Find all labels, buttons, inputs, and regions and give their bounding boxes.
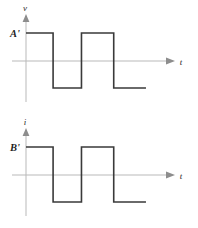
waveform-plot-current: i t B' [0,114,198,228]
waveform-figure: v t A' i t B' [0,0,198,228]
y-axis-label-current: i [24,117,27,127]
y-axis-arrowhead-current [23,128,30,136]
x-axis-arrowhead-current [166,172,175,179]
y-axis-arrowhead-voltage [23,14,30,22]
x-axis-arrowhead-voltage [166,58,175,65]
waveform-plot-voltage: v t A' [0,0,198,114]
level-label-current: B' [9,142,20,153]
y-axis-label-voltage: v [23,3,27,13]
level-label-voltage: A' [9,28,20,39]
waveform-panel-current: i t B' [0,114,198,228]
x-axis-label-voltage: t [180,57,183,67]
x-axis-label-current: t [180,171,183,181]
waveform-panel-voltage: v t A' [0,0,198,114]
